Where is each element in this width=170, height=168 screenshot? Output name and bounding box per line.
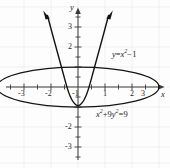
y-axis-arrow (75, 8, 81, 15)
x-tick-label-neg3: -3 (18, 90, 25, 98)
parabola-left-arrow (43, 11, 50, 20)
y-tick-label-pos3: 3 (68, 23, 72, 31)
x-tick-label-pos3: 3 (141, 90, 145, 98)
x-tick-label-neg1: -1 (72, 90, 79, 98)
ellipse-equation-label: x2+9y2=9 (96, 110, 128, 119)
y-tick-label-pos2: 2 (68, 43, 72, 51)
coordinate-plot (0, 0, 170, 168)
x-tick-label-pos1: 1 (103, 90, 107, 98)
y-tick-label-neg2: -2 (65, 123, 72, 131)
y-tick-label-neg3: -3 (65, 143, 72, 151)
x-axis-name: x (161, 90, 165, 99)
x-tick-label-neg2: -2 (45, 90, 52, 98)
y-axis-name: y (70, 3, 74, 12)
grid-lines (0, 0, 170, 168)
parabola-constant: 1 (132, 49, 136, 59)
math-figure: -3 -2 -1 1 2 3 3 2 -2 -3 x y y=x2−1 x2+9… (0, 0, 170, 168)
parabola-right-arrow (106, 11, 113, 20)
x-tick-label-pos2: 2 (130, 90, 134, 98)
ellipse-rhs: 9 (123, 109, 127, 119)
parabola-equation-label: y=x2−1 (112, 50, 136, 59)
